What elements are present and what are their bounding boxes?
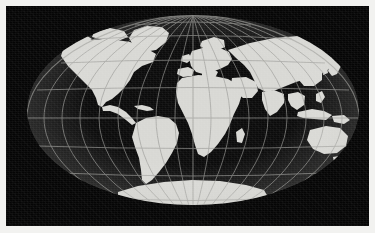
globe-limb-glow — [27, 15, 359, 205]
land-japan-north — [336, 51, 345, 60]
image-frame — [0, 0, 375, 233]
land-new-zealand — [353, 149, 361, 162]
world-map-image — [6, 6, 369, 226]
parallel-80s — [135, 211, 251, 214]
world-map-svg — [6, 6, 369, 226]
